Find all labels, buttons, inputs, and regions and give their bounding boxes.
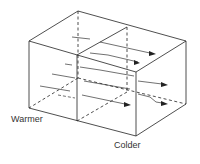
arrow-icon xyxy=(149,51,156,56)
box-diagram xyxy=(0,0,200,164)
top-divider xyxy=(77,27,127,55)
right-face-edges xyxy=(136,41,186,136)
arrow-icon xyxy=(161,82,168,87)
arrow-icon xyxy=(124,102,131,107)
colder-label: Colder xyxy=(114,140,141,150)
front-face xyxy=(29,41,136,136)
arrow-icon xyxy=(161,101,168,106)
arrowheads xyxy=(124,51,168,107)
warmer-label: Warmer xyxy=(11,114,43,124)
top-face-edges xyxy=(29,11,186,72)
arrow-icon xyxy=(134,60,140,65)
